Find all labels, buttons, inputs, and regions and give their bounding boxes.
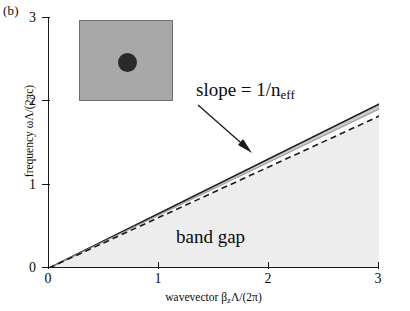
inset-core-circle (118, 53, 137, 72)
x-ticklabel-2: 2 (258, 272, 278, 286)
y-axis-title: frequency ωΛ/(2πc) (23, 36, 35, 226)
x-tick-3 (378, 262, 379, 269)
x-tick-0 (48, 262, 49, 269)
x-axis-title-tail: Λ/(2π) (231, 291, 262, 303)
band-gap-label: band gap (176, 227, 245, 246)
x-tick-2 (268, 262, 269, 269)
slope-annotation-text: slope = 1/n (196, 79, 281, 100)
x-axis-title: wavevector βzΛ/(2π) (48, 291, 379, 305)
x-axis-title-main: wavevector β (165, 291, 227, 303)
y-tick-3 (42, 17, 50, 18)
panel-label: (b) (3, 4, 19, 17)
y-ticklabel-0: 0 (20, 261, 36, 275)
inset-fiber-cross-section (79, 20, 173, 101)
slope-annotation: slope = 1/neff (196, 80, 295, 102)
x-ticklabel-3: 3 (368, 272, 388, 286)
y-ticklabel-3: 3 (20, 11, 36, 25)
y-tick-1 (42, 184, 50, 185)
x-ticklabel-1: 1 (148, 272, 168, 286)
x-ticklabel-0: 0 (38, 272, 58, 286)
y-tick-2 (42, 100, 50, 101)
slope-annotation-subscript: eff (281, 87, 295, 102)
x-tick-1 (158, 262, 159, 269)
figure-panel-b: (b) 3 2 1 0 0 1 2 3 frequency ωΛ/(2πc) w… (0, 0, 410, 311)
